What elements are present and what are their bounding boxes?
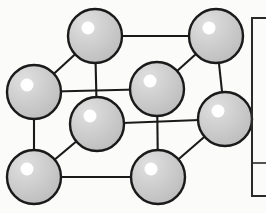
atom-back-top-left [68, 9, 122, 63]
atom-front-bottom-mid-highlight-icon [145, 163, 158, 176]
atom-front-bottom-left-sphere [7, 150, 61, 204]
atom-back-top-left-sphere [68, 9, 122, 63]
atom-back-bottom-left [7, 65, 61, 119]
atom-front-bottom-left-highlight-icon [21, 163, 34, 176]
atom-back-top-left-highlight-icon [82, 22, 95, 35]
bond-layer [34, 36, 225, 177]
atom-front-top-left [70, 97, 124, 151]
atom-front-bottom-left [7, 150, 61, 204]
atom-front-top-right-highlight-icon [144, 75, 157, 88]
atom-front-top-right [130, 62, 184, 116]
lattice-diagram [0, 0, 266, 213]
atom-front-top-left-highlight-icon [84, 110, 97, 123]
unit-cell-figure [0, 0, 266, 213]
legend-box [252, 18, 266, 196]
side-frame-layer [252, 18, 266, 196]
atom-front-top-left-sphere [70, 97, 124, 151]
atom-back-top-right-sphere [189, 9, 243, 63]
atom-front-bottom-mid [131, 150, 185, 204]
atom-mid-right-highlight-icon [212, 105, 225, 118]
atom-front-bottom-mid-sphere [131, 150, 185, 204]
atom-back-bottom-left-highlight-icon [21, 79, 34, 92]
atom-front-top-right-sphere [130, 62, 184, 116]
atom-mid-right-sphere [198, 92, 252, 146]
atom-back-top-right-highlight-icon [203, 22, 216, 35]
atom-back-top-right [189, 9, 243, 63]
atom-mid-right [198, 92, 252, 146]
atom-layer [7, 9, 252, 204]
atom-back-bottom-left-sphere [7, 65, 61, 119]
